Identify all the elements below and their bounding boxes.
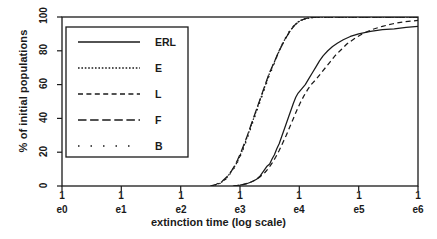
chart-figure: % of initial populations 0 20 40 60 80 1… xyxy=(0,0,437,239)
x-tick-label-e4: 1 e4 xyxy=(279,190,319,215)
legend-label-b: B xyxy=(155,140,163,152)
legend: ERL E L F B xyxy=(66,27,188,157)
x-axis-title: extinction time (log scale) xyxy=(0,216,437,228)
legend-label-f: F xyxy=(155,114,162,126)
x-tick-exponent: e1 xyxy=(101,204,141,215)
data-series-group xyxy=(210,17,418,186)
x-tick-label-e3: 1 e3 xyxy=(220,190,260,215)
x-tick-mantissa: 1 xyxy=(279,190,319,201)
x-tick-exponent: e4 xyxy=(279,204,319,215)
y-axis-ticks xyxy=(57,17,62,186)
series-line-b xyxy=(213,17,418,186)
x-tick-exponent: e5 xyxy=(339,204,379,215)
x-tick-label-e0: 1 e0 xyxy=(42,190,82,215)
x-tick-label-e2: 1 e2 xyxy=(161,190,201,215)
x-tick-exponent: e2 xyxy=(161,204,201,215)
x-tick-mantissa: 1 xyxy=(101,190,141,201)
x-tick-exponent: e3 xyxy=(220,204,260,215)
series-line-l xyxy=(234,20,418,186)
x-tick-mantissa: 1 xyxy=(339,190,379,201)
x-tick-mantissa: 1 xyxy=(42,190,82,201)
legend-label-l: L xyxy=(155,88,162,100)
series-line-erl xyxy=(233,26,418,186)
x-tick-label-e6: 1 e6 xyxy=(398,190,437,215)
legend-label-erl: ERL xyxy=(155,36,177,48)
x-tick-mantissa: 1 xyxy=(220,190,260,201)
x-tick-mantissa: 1 xyxy=(161,190,201,201)
x-tick-exponent: e6 xyxy=(398,204,437,215)
series-line-e xyxy=(212,17,418,186)
x-tick-label-e1: 1 e1 xyxy=(101,190,141,215)
x-tick-exponent: e0 xyxy=(42,204,82,215)
x-tick-label-e5: 1 e5 xyxy=(339,190,379,215)
x-tick-mantissa: 1 xyxy=(398,190,437,201)
series-line-f xyxy=(210,17,418,186)
legend-label-e: E xyxy=(155,62,162,74)
